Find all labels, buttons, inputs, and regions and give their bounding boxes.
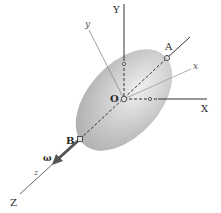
omega-label: ω bbox=[43, 153, 52, 163]
point-A-marker bbox=[164, 55, 169, 60]
Y-axis-marker bbox=[122, 62, 125, 65]
rigid-body-diagram: Y y A x O X B ω z Z bbox=[0, 0, 221, 213]
origin-label: O bbox=[110, 93, 119, 104]
Y-axis-label: Y bbox=[112, 4, 120, 15]
point-B-marker bbox=[78, 137, 83, 142]
point-A-label: A bbox=[164, 41, 173, 52]
z-body-label: z bbox=[33, 168, 39, 177]
x-body-label: x bbox=[193, 61, 198, 71]
X-axis-label: X bbox=[201, 103, 209, 114]
X-axis-marker bbox=[148, 97, 151, 100]
origin-marker bbox=[121, 96, 127, 102]
point-B-label: B bbox=[66, 135, 74, 146]
Z-axis-label: Z bbox=[10, 197, 17, 208]
y-body-label: y bbox=[84, 19, 91, 29]
